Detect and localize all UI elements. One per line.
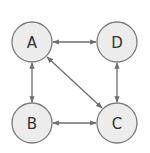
- graph-diagram: A D B C: [0, 0, 150, 153]
- node-b-label: B: [27, 115, 37, 133]
- node-d: D: [97, 22, 137, 62]
- node-c-label: C: [112, 115, 122, 133]
- edge-a-c: [47, 57, 102, 108]
- node-c: C: [97, 103, 137, 143]
- node-a: A: [12, 22, 52, 62]
- node-a-label: A: [27, 34, 38, 52]
- node-b: B: [12, 103, 52, 143]
- node-d-label: D: [111, 34, 123, 52]
